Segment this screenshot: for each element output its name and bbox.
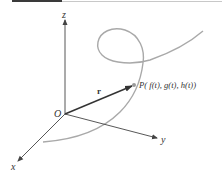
space-curve-figure: z y x O r P( f(t), g(t), h(t)): [0, 0, 222, 176]
x-axis: [18, 114, 65, 161]
y-axis-label: y: [160, 134, 166, 145]
z-axis-label: z: [61, 9, 66, 20]
origin-label: O: [54, 108, 61, 119]
x-axis-label: x: [10, 161, 16, 172]
point-p-marker: [132, 83, 136, 87]
point-p-label: P( f(t), g(t), h(t)): [138, 80, 196, 90]
y-axis: [65, 114, 157, 138]
vector-r-label: r: [97, 86, 101, 96]
diagram-canvas: z y x O r P( f(t), g(t), h(t)): [0, 0, 222, 176]
